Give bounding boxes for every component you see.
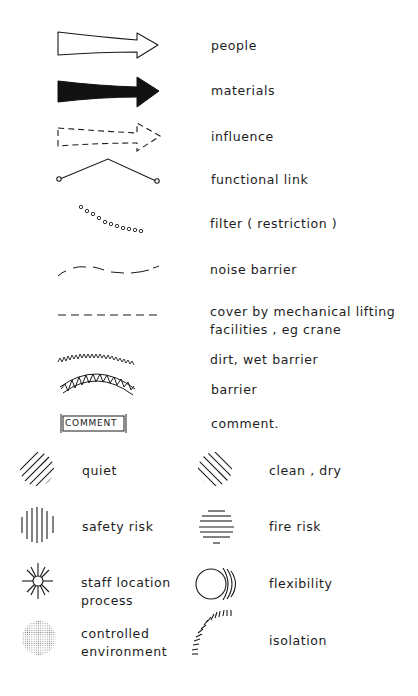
reverse-diagonal-hatch-circle-icon [186, 446, 240, 493]
circle-ripples-icon [196, 568, 236, 600]
label-fire-risk: fire risk [269, 519, 321, 534]
label-cover-line2: facilities , eg crane [210, 322, 341, 337]
stippled-circle-icon [22, 621, 56, 655]
label-flexibility: flexibility [269, 576, 332, 591]
label-comment: comment. [211, 416, 279, 431]
label-staff-location-line2: process [81, 593, 133, 608]
label-controlled-environment-line1: controlled [81, 626, 149, 641]
label-materials: materials [211, 83, 275, 98]
dashed-arrow-icon [58, 123, 160, 151]
truss-arc-icon [60, 374, 135, 395]
wavy-dashed-line-icon [58, 266, 159, 276]
label-controlled-environment-line2: environment [81, 644, 167, 659]
label-barrier: barrier [211, 382, 257, 397]
vertical-hatch-circle-icon [22, 507, 53, 543]
tick-arc-icon [192, 610, 231, 654]
diagonal-hatch-circle-icon [6, 446, 64, 497]
starburst-icon [22, 563, 53, 599]
label-clean-dry: clean , dry [269, 463, 342, 478]
horizontal-hatch-circle-icon [199, 511, 234, 543]
label-people: people [211, 38, 257, 53]
label-functional-link: functional link [211, 172, 308, 187]
label-noise-barrier: noise barrier [210, 262, 297, 277]
angled-link-icon [57, 159, 159, 183]
label-isolation: isolation [269, 633, 327, 648]
label-staff-location-line1: staff location [81, 575, 171, 590]
label-cover-line1: cover by mechanical lifting [210, 304, 395, 319]
label-filter: filter ( restriction ) [210, 216, 337, 231]
zigzag-line-icon [58, 354, 134, 365]
comment-box-text: COMMENT [65, 417, 117, 430]
label-safety-risk: safety risk [82, 519, 154, 534]
label-dirt-wet-barrier: dirt, wet barrier [210, 352, 318, 367]
hollow-arrow-icon [58, 32, 158, 58]
label-influence: influence [211, 129, 274, 144]
label-quiet: quiet [82, 463, 117, 478]
solid-arrow-icon [58, 77, 159, 107]
legend-symbols-canvas [0, 0, 418, 696]
dotted-curve-icon [79, 205, 142, 232]
